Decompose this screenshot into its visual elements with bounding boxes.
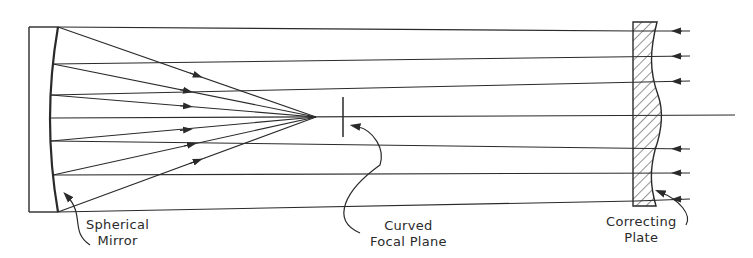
spherical-mirror-label-line1: Spherical	[86, 217, 149, 233]
focal-plane-pointer	[344, 126, 381, 233]
incoming-rays	[50, 31, 735, 201]
focal-plane-label-line2: Focal Plane	[370, 234, 447, 250]
reflected-arrows	[180, 73, 198, 163]
correcting-plate-label-line2: Plate	[606, 230, 677, 246]
spherical-mirror-label: Spherical Mirror	[86, 217, 149, 249]
correcting-plate	[633, 22, 662, 206]
spherical-mirror-label-line2: Mirror	[86, 233, 149, 249]
spherical-mirror	[50, 27, 58, 212]
tube-top-line	[58, 27, 636, 31]
correcting-plate-label: Correcting Plate	[606, 214, 677, 246]
reflected-rays	[51, 27, 316, 212]
correcting-plate-label-line1: Correcting	[606, 214, 677, 230]
focal-plane-label: Curved Focal Plane	[370, 218, 447, 250]
focal-plane-label-line1: Curved	[370, 218, 447, 234]
tube-bottom-line	[58, 201, 636, 212]
